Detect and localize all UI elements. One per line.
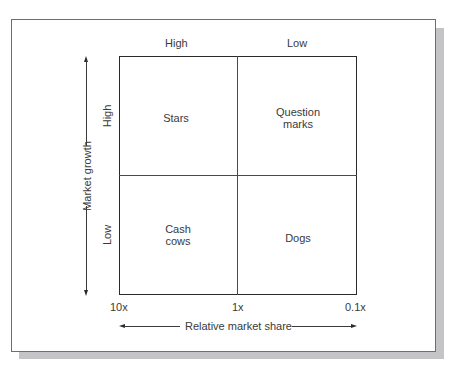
quadrant-stars-label: Stars — [163, 112, 189, 124]
row-header-low: Low — [101, 225, 113, 245]
quadrant-question-marks: Question marks — [276, 106, 320, 130]
quadrant-question-marks-line1: Question — [276, 106, 320, 118]
row-header-high: High — [101, 105, 113, 128]
arrow-right-icon — [351, 324, 357, 328]
column-header-low: Low — [287, 37, 307, 50]
quadrant-dogs: Dogs — [285, 232, 311, 244]
quadrant-stars: Stars — [163, 112, 189, 124]
arrow-down-icon — [84, 290, 88, 296]
x-axis-label: Relative market share — [185, 320, 292, 333]
matrix-horizontal-divider — [119, 175, 357, 176]
x-tick-0-1x: 0.1x — [345, 301, 366, 314]
y-axis-line-bottom — [86, 206, 87, 292]
x-tick-10x: 10x — [110, 301, 128, 314]
quadrant-dogs-label: Dogs — [285, 232, 311, 244]
y-axis-line-top — [86, 60, 87, 146]
column-header-high: High — [165, 37, 188, 50]
quadrant-cash-cows: Cash cows — [165, 223, 191, 247]
quadrant-cash-cows-line1: Cash — [165, 223, 191, 235]
x-axis-line-right — [292, 326, 352, 327]
x-tick-1x: 1x — [232, 301, 244, 314]
quadrant-question-marks-line2: marks — [276, 118, 320, 130]
quadrant-cash-cows-line2: cows — [165, 235, 191, 247]
x-axis-line-left — [124, 326, 180, 327]
y-axis-label: Market growth — [81, 141, 93, 211]
